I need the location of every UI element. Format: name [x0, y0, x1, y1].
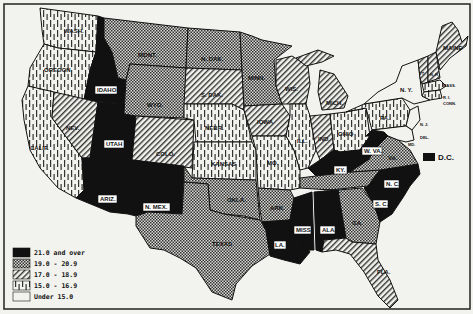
svg-text:KY.: KY.: [336, 167, 346, 173]
svg-text:MINN.: MINN.: [248, 75, 265, 81]
legend-swatch-c1: [13, 292, 30, 301]
svg-text:MISS.: MISS.: [296, 227, 313, 233]
svg-text:S. DAK.: S. DAK.: [201, 92, 223, 98]
svg-text:FLA.: FLA.: [377, 269, 391, 275]
legend-label-c3: 17.0 - 18.9: [34, 271, 77, 279]
svg-text:PA.: PA.: [380, 115, 390, 121]
svg-text:W. VA.: W. VA.: [364, 148, 383, 154]
legend-label-c5: 21.0 and over: [34, 249, 85, 257]
svg-text:TEXAS: TEXAS: [212, 241, 232, 247]
legend-label-c2: 15.0 - 16.9: [34, 282, 77, 290]
svg-text:N. J.: N. J.: [420, 122, 428, 127]
state-wyo[interactable]: [124, 64, 186, 118]
svg-text:WIS.: WIS.: [285, 86, 298, 92]
us-choropleth-map: WASH. OREGON CALIF. IDAHO NEV. UTAH ARIZ…: [0, 0, 473, 314]
svg-text:ALA.: ALA.: [322, 227, 336, 233]
svg-text:GA.: GA.: [352, 220, 363, 226]
legend-swatch-c4: [13, 259, 30, 268]
dc-callout: D.C.: [423, 153, 454, 162]
state-nebr[interactable]: [184, 104, 252, 142]
svg-text:ARK.: ARK.: [270, 205, 285, 211]
svg-text:ILL.: ILL.: [297, 138, 308, 144]
legend-swatch-c2: [13, 281, 30, 290]
svg-text:MD.: MD.: [408, 142, 415, 147]
svg-text:N. Y.: N. Y.: [400, 87, 413, 93]
svg-text:ARIZ.: ARIZ.: [100, 196, 116, 202]
svg-text:CALIF.: CALIF.: [30, 145, 49, 151]
svg-text:N. H.: N. H.: [430, 72, 439, 77]
svg-text:COLO.: COLO.: [156, 151, 175, 157]
svg-text:OREGON: OREGON: [44, 67, 71, 73]
svg-text:WYO.: WYO.: [147, 102, 163, 108]
svg-text:IOWA: IOWA: [257, 119, 274, 125]
svg-text:OHIO: OHIO: [338, 131, 354, 137]
svg-text:IND.: IND.: [318, 136, 330, 142]
state-ndak[interactable]: [186, 28, 242, 70]
legend-swatch-c3: [13, 270, 30, 279]
svg-text:MAINE: MAINE: [443, 45, 462, 51]
svg-text:LA.: LA.: [275, 242, 285, 248]
state-colo[interactable]: [132, 116, 194, 168]
svg-text:CONN.: CONN.: [443, 101, 456, 106]
legend-swatch-c5: [13, 248, 30, 257]
svg-text:UTAH: UTAH: [106, 141, 122, 147]
svg-text:MO.: MO.: [267, 160, 279, 166]
legend-label-c4: 19.0 - 20.9: [34, 260, 77, 268]
svg-text:DEL.: DEL.: [420, 135, 429, 140]
svg-text:VT.: VT.: [419, 71, 425, 76]
svg-text:N. MEX.: N. MEX.: [145, 204, 168, 210]
states-layer: [22, 8, 468, 308]
legend: 21.0 and over 19.0 - 20.9 17.0 - 18.9 15…: [13, 248, 85, 301]
svg-text:WASH.: WASH.: [64, 28, 84, 34]
svg-text:N. C.: N. C.: [386, 181, 400, 187]
legend-label-c1: Under 15.0: [34, 293, 73, 301]
svg-text:MICH.: MICH.: [326, 100, 343, 106]
svg-text:R. I.: R. I.: [443, 95, 450, 100]
svg-text:MASS.: MASS.: [443, 83, 456, 88]
state-ariz[interactable]: [76, 158, 132, 214]
svg-text:NEBR.: NEBR.: [205, 125, 224, 131]
svg-text:OKLA.: OKLA.: [227, 197, 246, 203]
svg-text:NEV.: NEV.: [66, 125, 80, 131]
dc-swatch: [423, 153, 435, 161]
svg-text:VA.: VA.: [388, 155, 398, 161]
svg-text:S. C.: S. C.: [375, 201, 389, 207]
svg-text:MONT.: MONT.: [138, 52, 157, 58]
svg-text:IDAHO: IDAHO: [97, 87, 117, 93]
svg-text:TENN.: TENN.: [323, 188, 341, 194]
svg-text:N. DAK.: N. DAK.: [201, 56, 224, 62]
svg-text:KANSAS: KANSAS: [211, 161, 236, 167]
dc-label: D.C.: [438, 153, 454, 162]
